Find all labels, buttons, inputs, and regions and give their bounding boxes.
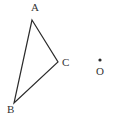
point-label-o: O xyxy=(96,66,104,77)
geometry-figure: A B C O xyxy=(0,0,114,127)
vertex-label-a: A xyxy=(31,2,39,13)
point-o-marker xyxy=(98,58,101,61)
figure-canvas xyxy=(0,0,114,127)
triangle-abc-outline xyxy=(14,20,58,103)
vertex-label-c: C xyxy=(62,57,69,68)
vertex-label-b: B xyxy=(7,104,14,115)
